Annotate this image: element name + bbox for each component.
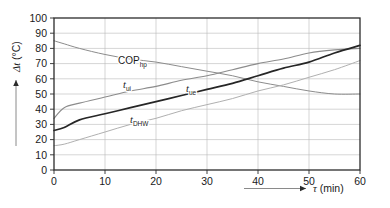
- x-tick-label: 30: [201, 175, 213, 187]
- y-tick-label: 20: [35, 133, 47, 145]
- x-axis-unit: (min): [320, 182, 344, 194]
- y-tick-label: 50: [35, 88, 47, 100]
- x-axis-title-text: τ(min): [313, 182, 344, 194]
- y-tick-label: 60: [35, 73, 47, 85]
- chart-figure: 01020304050607080901000102030405060Δt(°C…: [0, 0, 390, 208]
- x-tick-label: 10: [99, 175, 111, 187]
- x-axis-symbol: τ: [313, 183, 318, 194]
- tue-label-sub: ue: [189, 89, 197, 96]
- y-tick-label: 90: [35, 27, 47, 39]
- y-tick-label: 40: [35, 103, 47, 115]
- y-axis-arrow-head: [13, 80, 19, 86]
- y-tick-label: 100: [29, 12, 47, 24]
- y-tick-label: 30: [35, 118, 47, 130]
- y-axis-unit: (°C): [10, 41, 22, 60]
- y-tick-label: 80: [35, 42, 47, 54]
- y-tick-label: 10: [35, 149, 47, 161]
- cop-label-sub: hp: [140, 61, 148, 69]
- y-tick-label: 70: [35, 57, 47, 69]
- y-axis-title: Δt(°C): [10, 41, 22, 146]
- x-tick-label: 0: [51, 175, 57, 187]
- x-tick-label: 40: [252, 175, 264, 187]
- y-axis-symbol: Δt: [11, 62, 22, 73]
- y-tick-label: 0: [41, 164, 47, 176]
- tdhw-label-sub: DHW: [133, 120, 149, 127]
- x-tick-label: 20: [150, 175, 162, 187]
- cop-label-main: COP: [118, 55, 140, 66]
- x-tick-label: 60: [354, 175, 366, 187]
- line-chart: 01020304050607080901000102030405060Δt(°C…: [0, 0, 390, 208]
- y-axis-title-text: Δt(°C): [10, 41, 22, 73]
- tui-label-sub: ui: [126, 85, 131, 92]
